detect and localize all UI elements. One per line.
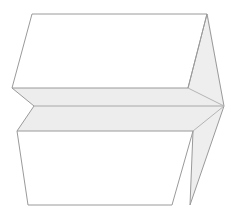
upper-face-fill bbox=[12, 14, 207, 88]
lower-face-group bbox=[17, 131, 193, 205]
upper-face-group bbox=[12, 14, 207, 88]
lower-face-fill bbox=[17, 131, 193, 205]
figure-canvas: 3D line-art solid Wireframe perspective … bbox=[0, 0, 237, 221]
line-art-figure: 3D line-art solid Wireframe perspective … bbox=[0, 0, 237, 221]
middle-band-group bbox=[12, 88, 224, 131]
middle-band-fill bbox=[12, 88, 224, 131]
